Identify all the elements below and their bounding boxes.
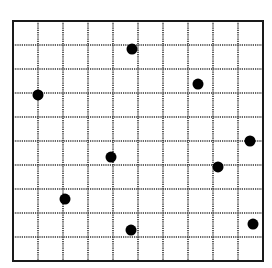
grid-points (33, 44, 259, 236)
grid-point (193, 79, 204, 90)
grid-lines (13, 21, 263, 261)
grid-point (106, 152, 117, 163)
grid-point (60, 194, 71, 205)
grid-point (126, 225, 137, 236)
grid-point (245, 136, 256, 147)
grid-point (33, 89, 44, 100)
grid-point (213, 161, 224, 172)
dot-grid-diagram (0, 0, 272, 268)
grid-point (127, 44, 138, 55)
grid-point (248, 219, 259, 230)
